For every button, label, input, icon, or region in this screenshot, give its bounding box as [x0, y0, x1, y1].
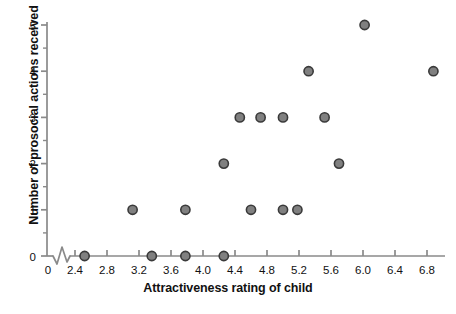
x-tick-label: 4.0: [195, 264, 211, 276]
x-axis-break-zigzag: [53, 247, 70, 264]
data-point: [320, 113, 329, 122]
tick-labels: 01234502.42.83.23.64.04.44.85.25.66.06.4…: [30, 20, 435, 277]
x-tick-label: 5.6: [323, 264, 339, 276]
data-point: [278, 205, 287, 214]
axes: [47, 22, 445, 264]
data-points: [80, 20, 438, 260]
plot-canvas: 01234502.42.83.23.64.04.44.85.25.66.06.4…: [0, 0, 456, 314]
data-point: [278, 113, 287, 122]
x-tick-label: 6.0: [355, 264, 371, 276]
x-tick-label: 6.8: [419, 264, 435, 276]
data-point: [80, 251, 89, 260]
data-point: [334, 159, 343, 168]
data-point: [293, 205, 302, 214]
x-tick-label: 2.8: [99, 264, 115, 276]
data-point: [147, 251, 156, 260]
x-origin-label: 0: [45, 264, 51, 276]
data-point: [235, 113, 244, 122]
data-point: [360, 20, 369, 29]
data-point: [304, 67, 313, 76]
x-tick-label: 5.2: [291, 264, 307, 276]
y-tick-label: 0: [30, 251, 36, 263]
scatter-plot-figure: 01234502.42.83.23.64.04.44.85.25.66.06.4…: [0, 0, 456, 314]
x-tick-label: 4.4: [227, 264, 244, 276]
x-axis-label: Attractiveness rating of child: [0, 281, 456, 295]
data-point: [256, 113, 265, 122]
x-tick-label: 2.4: [67, 264, 84, 276]
data-point: [246, 205, 255, 214]
data-point: [128, 205, 137, 214]
x-tick-label: 6.4: [387, 264, 404, 276]
data-point: [181, 251, 190, 260]
x-tick-label: 3.6: [163, 264, 179, 276]
x-tick-label: 4.8: [259, 264, 275, 276]
data-point: [219, 251, 228, 260]
data-point: [219, 159, 228, 168]
data-point: [181, 205, 190, 214]
tick-marks: [41, 25, 427, 256]
y-axis-label: Number of prosocial actions received: [27, 0, 41, 237]
data-point: [429, 67, 438, 76]
x-tick-label: 3.2: [131, 264, 147, 276]
